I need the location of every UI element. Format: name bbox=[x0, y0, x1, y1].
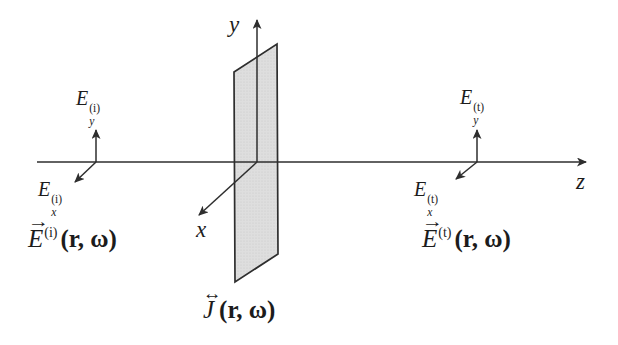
symbol-sub: y bbox=[89, 115, 94, 128]
incident-ex-arrow bbox=[75, 162, 96, 182]
symbol-subsup: (i)y bbox=[89, 102, 100, 128]
x-axis-label: x bbox=[196, 218, 206, 241]
incident-field-label: → E (i)(r, ω) bbox=[28, 226, 117, 251]
vector-symbol: → E bbox=[422, 226, 437, 251]
figure-canvas: y z x E(i)y E(i)x E(t)y E(t)x → E (i)(r,… bbox=[0, 0, 618, 345]
symbol-base: E bbox=[460, 86, 472, 108]
transmitted-ex-arrow bbox=[456, 162, 477, 179]
symbol-sup: (i) bbox=[51, 193, 62, 206]
transmitted-field-label: → E (t)(r, ω) bbox=[422, 226, 511, 251]
symbol-args: (r, ω) bbox=[219, 296, 275, 323]
symbol-base: E bbox=[76, 87, 88, 109]
vector-symbol: → E bbox=[28, 226, 43, 251]
symbol-subsup: (i)x bbox=[51, 193, 62, 219]
vector-arrow-icon: → bbox=[28, 213, 49, 230]
symbol-sub: y bbox=[473, 114, 478, 127]
incident-ey-label: E(i)y bbox=[76, 88, 100, 128]
vector-arrow-icon: → bbox=[422, 213, 443, 230]
symbol-base: E bbox=[38, 178, 50, 200]
diagram-svg bbox=[0, 0, 618, 345]
symbol-args: (r, ω) bbox=[61, 225, 117, 252]
current-density-label: ↔ J (r, ω) bbox=[203, 297, 275, 322]
y-axis-label: y bbox=[229, 13, 239, 36]
z-axis-label: z bbox=[576, 170, 585, 193]
transmitted-ey-label: E(t)y bbox=[460, 87, 484, 127]
dyadic-symbol: ↔ J bbox=[203, 297, 214, 322]
dyadic-arrow-icon: ↔ bbox=[203, 285, 222, 302]
symbol-sup: (i) bbox=[89, 102, 100, 115]
symbol-args: (r, ω) bbox=[455, 225, 511, 252]
symbol-sup: (t) bbox=[473, 101, 484, 114]
symbol-subsup: (t)y bbox=[473, 101, 484, 127]
symbol-base: E bbox=[414, 178, 426, 200]
symbol-sub: x bbox=[51, 206, 56, 219]
symbol-sup: (t) bbox=[427, 193, 438, 206]
